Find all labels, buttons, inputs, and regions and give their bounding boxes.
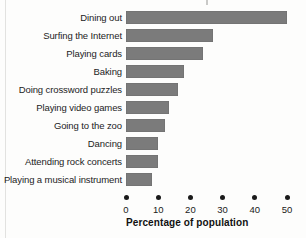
bar-row: Baking: [0, 63, 306, 81]
category-label: Attending rock concerts: [25, 153, 122, 171]
bar: [126, 29, 213, 42]
bar: [126, 173, 152, 186]
x-tick-label: 0: [123, 204, 128, 215]
bar-row: Doing crossword puzzles: [0, 81, 306, 99]
scan-artifact-mark: [206, 0, 208, 5]
x-tick-mark: [188, 195, 193, 200]
bar: [126, 47, 203, 60]
category-label: Dancing: [88, 135, 122, 153]
bar: [126, 11, 287, 24]
bar: [126, 119, 165, 132]
bar-row: Playing video games: [0, 99, 306, 117]
bar: [126, 137, 158, 150]
bar-row: Going to the zoo: [0, 117, 306, 135]
bar-chart: Dining outSurfing the InternetPlaying ca…: [0, 0, 306, 238]
category-label: Dining out: [80, 9, 122, 27]
bar: [126, 65, 184, 78]
x-axis-title: Percentage of population: [126, 217, 248, 228]
x-axis: 01020304050 Percentage of population: [0, 191, 306, 238]
category-label: Playing cards: [66, 45, 122, 63]
bar: [126, 83, 178, 96]
x-tick-label: 40: [250, 204, 261, 215]
bar-row: Surfing the Internet: [0, 27, 306, 45]
x-tick-mark: [285, 195, 290, 200]
x-tick-mark: [220, 195, 225, 200]
x-tick-label: 50: [282, 204, 293, 215]
bar-row: Playing a musical instrument: [0, 171, 306, 189]
x-tick-mark: [156, 195, 161, 200]
category-label: Going to the zoo: [54, 117, 122, 135]
x-tick-mark: [124, 195, 129, 200]
category-label: Surfing the Internet: [43, 27, 122, 45]
x-tick-label: 10: [153, 204, 164, 215]
bar-row: Attending rock concerts: [0, 153, 306, 171]
x-tick-mark: [252, 195, 257, 200]
category-label: Baking: [94, 63, 122, 81]
bar: [126, 101, 169, 114]
category-label: Playing a musical instrument: [4, 171, 122, 189]
plot-area: Dining outSurfing the InternetPlaying ca…: [0, 9, 306, 191]
bar-row: Dining out: [0, 9, 306, 27]
category-label: Playing video games: [36, 99, 122, 117]
category-label: Doing crossword puzzles: [19, 81, 122, 99]
bar-row: Playing cards: [0, 45, 306, 63]
bar: [126, 155, 158, 168]
x-tick-label: 20: [185, 204, 196, 215]
x-tick-label: 30: [217, 204, 228, 215]
bar-row: Dancing: [0, 135, 306, 153]
